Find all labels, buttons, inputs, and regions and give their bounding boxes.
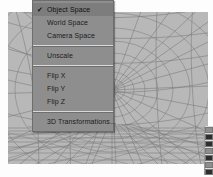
tool-button-4-icon[interactable] — [205, 148, 213, 154]
menu-item-object-space[interactable]: ✔ Object Space — [33, 3, 113, 16]
screenshot-root: ✔ Object Space World Space Camera Space … — [0, 0, 213, 177]
menu-item-3d-transformations[interactable]: 3D Transformations... — [33, 115, 113, 128]
tool-button-2-icon[interactable] — [205, 134, 213, 140]
menu-item-label: Object Space — [47, 6, 90, 13]
tool-button-3-icon[interactable] — [205, 141, 213, 147]
tool-button-1-icon[interactable] — [205, 127, 213, 133]
tool-button-7-icon[interactable] — [205, 169, 213, 175]
menu-item-label: World Space — [47, 19, 88, 26]
menu-item-flip-x[interactable]: Flip X — [33, 69, 113, 82]
menu-item-flip-y[interactable]: Flip Y — [33, 82, 113, 95]
tool-button-6-icon[interactable] — [205, 162, 213, 168]
right-edge-toolbar[interactable] — [204, 126, 213, 175]
menu-item-label: Flip X — [47, 72, 66, 79]
menu-item-label: Camera Space — [47, 32, 95, 39]
menu-item-flip-z[interactable]: Flip Z — [33, 95, 113, 108]
menu-group-unscale: Unscale — [33, 47, 113, 65]
menu-group-transformations: 3D Transformations... — [33, 113, 113, 131]
menu-item-label: Flip Y — [47, 85, 65, 92]
checkmark-icon: ✔ — [37, 3, 43, 16]
menu-item-unscale[interactable]: Unscale — [33, 49, 113, 62]
menu-item-label: 3D Transformations... — [47, 118, 116, 125]
menu-item-world-space[interactable]: World Space — [33, 16, 113, 29]
menu-item-label: Flip Z — [47, 98, 65, 105]
menu-group-flip: Flip X Flip Y Flip Z — [33, 67, 113, 111]
menu-item-label: Unscale — [47, 52, 73, 59]
transform-space-context-menu[interactable]: ✔ Object Space World Space Camera Space … — [32, 0, 114, 132]
tool-button-5-icon[interactable] — [205, 155, 213, 161]
menu-item-camera-space[interactable]: Camera Space — [33, 29, 113, 42]
menu-group-spaces: ✔ Object Space World Space Camera Space — [33, 1, 113, 45]
